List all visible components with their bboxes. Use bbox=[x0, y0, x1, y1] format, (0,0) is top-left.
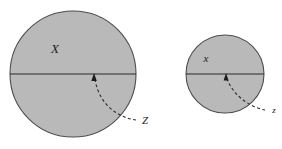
large-disk-panel: X Z bbox=[10, 11, 149, 137]
small-disk-panel: x z bbox=[186, 35, 276, 115]
figure-svg: X Z x z bbox=[0, 0, 282, 149]
large-disk-leader-label: Z bbox=[142, 114, 149, 126]
figure-canvas: X Z x z bbox=[0, 0, 282, 149]
large-disk-set-label: X bbox=[50, 41, 60, 56]
small-disk-set-label: x bbox=[203, 52, 209, 64]
small-disk-leader-label: z bbox=[271, 105, 276, 115]
